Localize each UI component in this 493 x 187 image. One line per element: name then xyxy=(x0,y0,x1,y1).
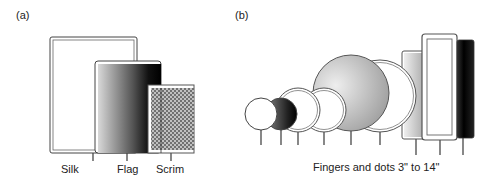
panel-b-caption: Fingers and dots 3" to 14" xyxy=(313,161,439,173)
scrim-label: Scrim xyxy=(156,163,184,175)
scrim-frame xyxy=(148,85,194,161)
panel-a-label: (a) xyxy=(16,9,29,21)
silk-label: Silk xyxy=(61,163,79,175)
diagram-canvas xyxy=(0,0,493,187)
white-flag xyxy=(422,34,457,140)
black-flag xyxy=(457,40,474,138)
small-white-dot xyxy=(245,98,277,130)
flag-label: Flag xyxy=(117,163,138,175)
panel-b-label: (b) xyxy=(235,9,248,21)
